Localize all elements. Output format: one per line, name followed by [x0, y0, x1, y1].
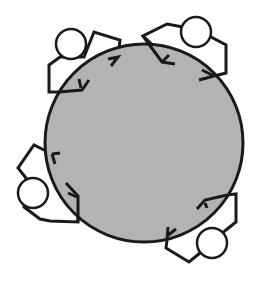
hand-mark: [205, 203, 207, 208]
person-left-head: [18, 178, 48, 208]
round-table-diagram: [0, 0, 260, 281]
round-table: [45, 44, 243, 242]
person-top-right-head: [181, 17, 211, 47]
person-bottom-right-head: [197, 228, 227, 258]
hand-mark: [79, 79, 81, 88]
person-top-left-head: [56, 29, 86, 59]
